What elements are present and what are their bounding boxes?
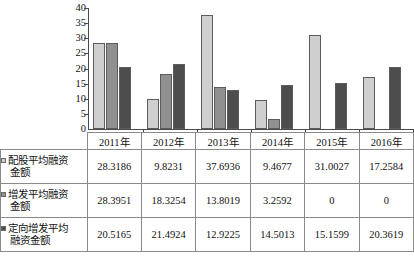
y-tick-label: 5 [62, 109, 86, 119]
bar-2011年-series-2 [119, 67, 132, 129]
bar-2016年-series-0 [363, 77, 376, 129]
y-tick-label: 35 [62, 18, 86, 28]
table-body: 配股平均融资金额28.31869.823137.69369.467731.002… [1, 150, 414, 252]
bar-2012年-series-2 [173, 64, 186, 129]
legend-label-text: 配股平均融资 [8, 155, 68, 166]
table-cell-r2-c2: 12.9225 [196, 218, 250, 252]
bar-group [197, 8, 251, 129]
table-cell-r0-c0: 28.3186 [87, 150, 141, 184]
y-tick-label: 25 [62, 48, 86, 58]
y-tick-label: 30 [62, 33, 86, 43]
y-tick-label: 15 [62, 79, 86, 89]
table-row: 增发平均融资金额28.395118.325413.80193.259200 [1, 184, 414, 218]
plot-area [89, 8, 413, 129]
table-col-header-2013年: 2013年 [196, 133, 250, 150]
y-tick-label: 10 [62, 94, 86, 104]
legend-row-label-2: 定向增发平均融资金额 [1, 218, 88, 252]
y-tick-mark [84, 69, 88, 70]
bar-2012年-series-0 [147, 99, 160, 129]
legend-label-text-line2: 融资金额 [1, 235, 87, 247]
table-cell-r2-c3: 14.5013 [250, 218, 304, 252]
table-cell-r0-c4: 31.0027 [305, 150, 359, 184]
bar-group [89, 8, 143, 129]
y-tick-label: 20 [62, 64, 86, 74]
y-tick-mark [84, 99, 88, 100]
y-tick-mark [84, 53, 88, 54]
legend-label-text-line2: 金额 [1, 167, 87, 179]
bar-2014年-series-0 [255, 100, 268, 129]
table-col-header-2014年: 2014年 [250, 133, 304, 150]
bar-group [251, 8, 305, 129]
table-row: 定向增发平均融资金额20.516521.492412.922514.501315… [1, 218, 414, 252]
table-col-header-2012年: 2012年 [141, 133, 195, 150]
bar-2011年-series-0 [93, 43, 106, 129]
series-1-swatch-icon [1, 192, 6, 197]
table-cell-r1-c1: 18.3254 [141, 184, 195, 218]
table-header: 2011年2012年2013年2014年2015年2016年 [1, 133, 414, 150]
y-tick-mark [84, 8, 88, 9]
y-tick-label: 40 [62, 3, 86, 13]
bar-2014年-series-2 [281, 85, 294, 129]
legend-label-text: 定向增发平均 [8, 223, 68, 234]
bar-2015年-series-2 [335, 83, 348, 129]
bar-group [305, 8, 359, 129]
data-table: 2011年2012年2013年2014年2015年2016年 配股平均融资金额2… [0, 132, 414, 252]
table-row: 配股平均融资金额28.31869.823137.69369.467731.002… [1, 150, 414, 184]
table-cell-r1-c3: 3.2592 [250, 184, 304, 218]
table-cell-r1-c2: 13.8019 [196, 184, 250, 218]
table-cell-r2-c4: 15.1599 [305, 218, 359, 252]
series-2-swatch-icon [1, 226, 6, 231]
bar-group [143, 8, 197, 129]
table-cell-r0-c1: 9.8231 [141, 150, 195, 184]
y-tick-mark [84, 84, 88, 85]
table-cell-r0-c2: 37.6936 [196, 150, 250, 184]
bar-2011年-series-1 [106, 43, 119, 129]
bar-2015年-series-0 [309, 35, 322, 129]
y-tick-mark [84, 114, 88, 115]
table-cell-r2-c5: 20.3619 [359, 218, 413, 252]
bar-2013年-series-1 [214, 87, 227, 129]
table-cell-r1-c5: 0 [359, 184, 413, 218]
bar-chart: 0510152025303540 [0, 0, 414, 132]
y-tick-mark [84, 38, 88, 39]
table-cell-r2-c1: 21.4924 [141, 218, 195, 252]
bar-2014年-series-1 [268, 119, 281, 129]
table-col-header-2015年: 2015年 [305, 133, 359, 150]
y-axis-tick-labels: 0510152025303540 [62, 0, 86, 132]
series-0-swatch-icon [1, 158, 6, 163]
legend-label-text: 增发平均融资 [8, 189, 68, 200]
bar-2016年-series-2 [389, 67, 402, 129]
table-corner-cell [1, 133, 88, 150]
y-tick-mark [84, 23, 88, 24]
table-cell-r0-c3: 9.4677 [250, 150, 304, 184]
table-header-row: 2011年2012年2013年2014年2015年2016年 [1, 133, 414, 150]
table-col-header-2011年: 2011年 [87, 133, 141, 150]
legend-row-label-0: 配股平均融资金额 [1, 150, 88, 184]
bar-2013年-series-2 [227, 90, 240, 129]
bar-2012年-series-1 [160, 74, 173, 129]
table-cell-r2-c0: 20.5165 [87, 218, 141, 252]
table-cell-r1-c0: 28.3951 [87, 184, 141, 218]
bar-group [359, 8, 413, 129]
table-col-header-2016年: 2016年 [359, 133, 413, 150]
legend-row-label-1: 增发平均融资金额 [1, 184, 88, 218]
legend-label-text-line2: 金额 [1, 201, 87, 213]
table-cell-r0-c5: 17.2584 [359, 150, 413, 184]
table-cell-r1-c4: 0 [305, 184, 359, 218]
bar-2013年-series-0 [201, 15, 214, 129]
